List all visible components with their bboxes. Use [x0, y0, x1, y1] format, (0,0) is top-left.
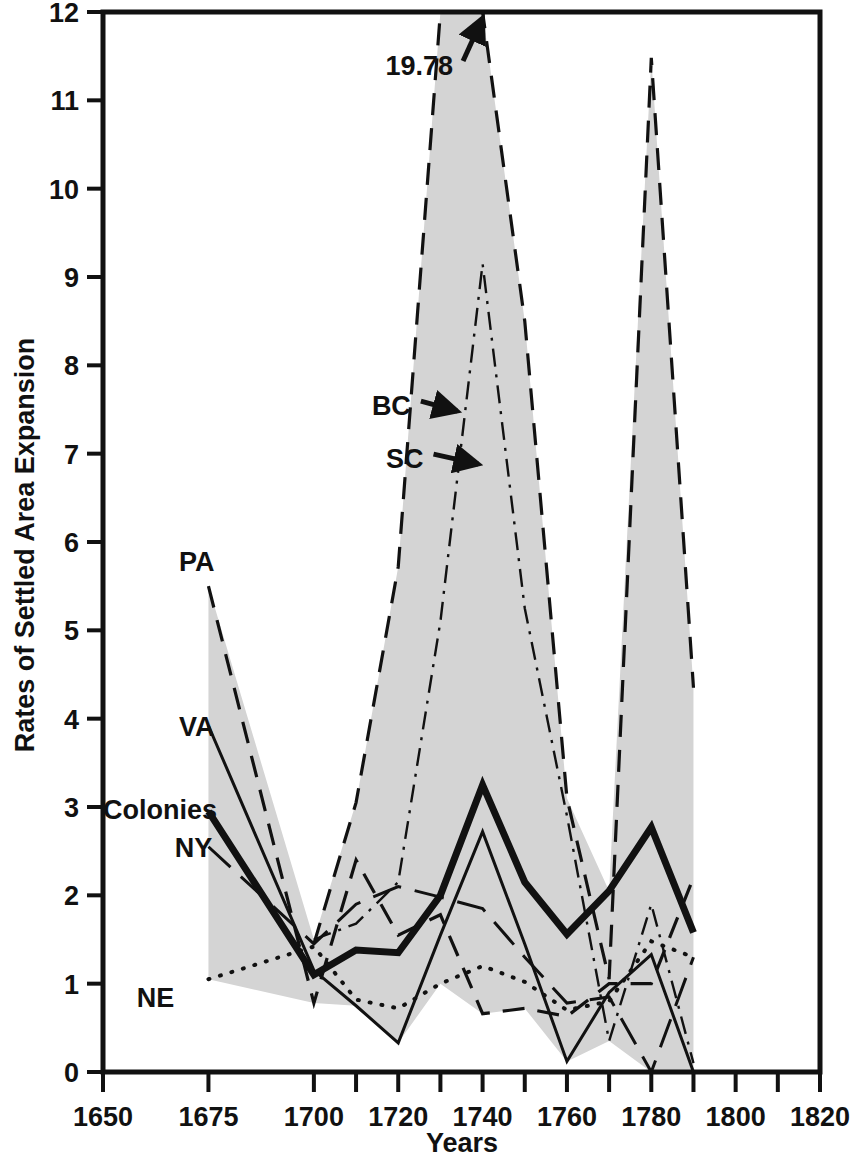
y-tick-label: 1	[64, 970, 79, 1000]
x-tick-label: 1720	[368, 1102, 428, 1132]
series-label-pa: PA	[179, 547, 215, 577]
y-tick-label: 2	[64, 881, 79, 911]
x-tick-label: 1675	[178, 1102, 238, 1132]
x-tick-label: 1700	[284, 1102, 344, 1132]
x-tick-label: 1650	[73, 1102, 133, 1132]
series-label-colonies: Colonies	[103, 795, 217, 825]
y-axis-tick-labels: 0123456789101112	[49, 0, 79, 1088]
x-axis-title: Years	[426, 1128, 498, 1158]
series-label-ny: NY	[175, 833, 213, 863]
y-tick-label: 10	[49, 175, 79, 205]
annotation-sc: SC	[386, 444, 424, 474]
y-axis-title: Rates of Settled Area Expansion	[10, 338, 40, 753]
y-tick-label: 12	[49, 0, 79, 28]
x-axis-ticks	[103, 1072, 820, 1092]
y-tick-label: 0	[64, 1058, 79, 1088]
y-tick-label: 7	[64, 440, 79, 470]
series-inline-labels: PAVAColoniesNYNE	[103, 547, 217, 1012]
x-tick-label: 1760	[537, 1102, 597, 1132]
y-tick-label: 6	[64, 528, 79, 558]
x-tick-label: 1800	[706, 1102, 766, 1132]
annotation-bc: BC	[372, 391, 411, 421]
series-label-ne: NE	[137, 983, 175, 1013]
y-tick-label: 8	[64, 351, 79, 381]
y-tick-label: 4	[64, 705, 79, 735]
y-tick-label: 5	[64, 616, 79, 646]
y-tick-label: 3	[64, 793, 79, 823]
annotation-19-78: 19.78	[385, 51, 453, 81]
x-tick-label: 1820	[790, 1102, 850, 1132]
y-tick-label: 9	[64, 263, 79, 293]
rates-of-settled-area-expansion-chart: 0123456789101112 16501675170017201740176…	[0, 0, 854, 1169]
series-label-va: VA	[179, 712, 215, 742]
x-tick-label: 1780	[621, 1102, 681, 1132]
chart-figure: 0123456789101112 16501675170017201740176…	[0, 0, 854, 1169]
y-tick-label: 11	[50, 86, 79, 116]
